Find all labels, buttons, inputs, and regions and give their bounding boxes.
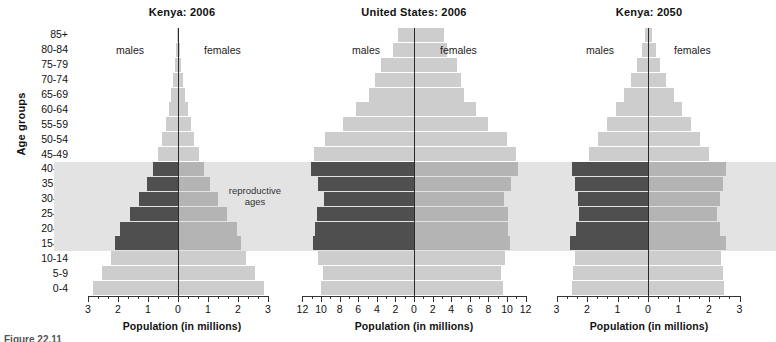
pyramid-row bbox=[536, 236, 762, 250]
pyramid-row bbox=[68, 43, 296, 57]
pyramid-row bbox=[536, 162, 762, 176]
figure-caption: Figure 22.11 bbox=[4, 334, 62, 342]
pyramid-row bbox=[536, 43, 762, 57]
x-axis-minor-tick bbox=[442, 296, 443, 299]
bar-male bbox=[579, 207, 648, 221]
x-axis-tick-label: 1 bbox=[615, 303, 621, 315]
bar-male bbox=[576, 222, 648, 236]
age-group-label: 45-49 bbox=[20, 149, 68, 160]
bar-female bbox=[178, 251, 246, 265]
bar-male bbox=[578, 192, 648, 206]
bar-male bbox=[356, 102, 414, 116]
x-axis-tick-label: 10 bbox=[501, 303, 513, 315]
pyramid-row bbox=[536, 88, 762, 102]
bar-female bbox=[414, 236, 510, 250]
pyramid-row bbox=[68, 73, 296, 87]
bar-male bbox=[375, 73, 414, 87]
x-axis-tick bbox=[648, 296, 649, 302]
x-axis-title: Population (in millions) bbox=[68, 320, 296, 332]
bar-male bbox=[398, 28, 414, 42]
pyramid-row bbox=[68, 28, 296, 42]
age-group-label: 0-4 bbox=[20, 283, 68, 294]
bar-female bbox=[648, 207, 717, 221]
x-axis-tick bbox=[557, 296, 558, 302]
x-axis-minor-tick bbox=[98, 296, 99, 299]
x-axis-tick bbox=[208, 296, 209, 302]
bar-male bbox=[631, 73, 648, 87]
x-axis: Population (in millions) 3210123 bbox=[536, 296, 762, 342]
bar-male bbox=[607, 117, 648, 131]
x-axis-minor-tick bbox=[577, 296, 578, 299]
bar-male bbox=[314, 147, 414, 161]
bar-male bbox=[93, 281, 179, 295]
x-axis-minor-tick bbox=[386, 296, 387, 299]
x-axis-minor-tick bbox=[597, 296, 598, 299]
bar-female bbox=[414, 266, 501, 280]
x-axis-minor-tick bbox=[218, 296, 219, 299]
pyramid-row bbox=[536, 251, 762, 265]
x-axis-minor-tick bbox=[405, 296, 406, 299]
chart-panel-kenya-2050: Kenya: 2050 males females Population (in… bbox=[536, 0, 762, 342]
bar-male bbox=[102, 266, 179, 280]
x-axis-minor-tick bbox=[719, 296, 720, 299]
pyramid-row bbox=[68, 207, 296, 221]
x-axis-minor-tick bbox=[248, 296, 249, 299]
bar-female bbox=[648, 192, 720, 206]
x-axis-tick-label: 2 bbox=[235, 303, 241, 315]
bar-female bbox=[414, 162, 518, 176]
bar-male bbox=[115, 236, 178, 250]
reproductive-ages-line-2: ages bbox=[218, 196, 292, 207]
x-axis-tick bbox=[679, 296, 680, 302]
reproductive-ages-line-1: reproductive bbox=[218, 185, 292, 196]
bar-female bbox=[178, 266, 255, 280]
x-axis-tick-label: 2 bbox=[584, 303, 590, 315]
bar-female bbox=[178, 102, 188, 116]
bar-female bbox=[648, 102, 682, 116]
bar-male bbox=[311, 162, 414, 176]
pyramid-row bbox=[68, 281, 296, 295]
center-axis-line bbox=[414, 28, 415, 296]
bar-female bbox=[178, 132, 194, 146]
x-axis-tick bbox=[88, 296, 89, 302]
x-axis-tick bbox=[587, 296, 588, 302]
bar-male bbox=[570, 236, 648, 250]
x-axis-minor-tick bbox=[312, 296, 313, 299]
bar-female bbox=[648, 88, 674, 102]
x-axis-tick bbox=[321, 296, 322, 302]
chart-panel-united-states-2006: United States: 2006 males females Popula… bbox=[300, 0, 528, 342]
bar-male bbox=[171, 88, 178, 102]
bar-female bbox=[414, 251, 505, 265]
bar-female bbox=[414, 147, 516, 161]
bar-female bbox=[648, 281, 724, 295]
x-axis-minor-tick bbox=[158, 296, 159, 299]
pyramid-row bbox=[68, 236, 296, 250]
bar-male bbox=[598, 132, 648, 146]
bar-male bbox=[111, 251, 179, 265]
males-label: males bbox=[352, 44, 380, 56]
x-axis-minor-tick bbox=[628, 296, 629, 299]
bar-female bbox=[178, 236, 241, 250]
x-axis-minor-tick bbox=[138, 296, 139, 299]
x-axis-tick bbox=[709, 296, 710, 302]
males-label: males bbox=[116, 44, 144, 56]
bar-male bbox=[166, 117, 178, 131]
bar-female bbox=[414, 102, 476, 116]
bar-male bbox=[369, 88, 414, 102]
bar-female bbox=[414, 73, 461, 87]
plot-area: males females bbox=[300, 28, 528, 296]
bar-female bbox=[648, 177, 723, 191]
x-axis-tick-label: 0 bbox=[175, 303, 181, 315]
bar-male bbox=[575, 251, 648, 265]
x-axis-minor-tick bbox=[198, 296, 199, 299]
x-axis: Population (in millions) 121086420246810… bbox=[300, 296, 528, 342]
bar-female bbox=[178, 192, 218, 206]
x-axis-title: Population (in millions) bbox=[536, 320, 762, 332]
age-group-label: 85+ bbox=[20, 29, 68, 40]
bar-male bbox=[317, 207, 414, 221]
bar-female bbox=[648, 266, 723, 280]
x-axis-minor-tick bbox=[607, 296, 608, 299]
bar-male bbox=[637, 58, 648, 72]
x-axis-minor-tick bbox=[368, 296, 369, 299]
x-axis-minor-tick bbox=[128, 296, 129, 299]
x-axis-minor-tick bbox=[479, 296, 480, 299]
